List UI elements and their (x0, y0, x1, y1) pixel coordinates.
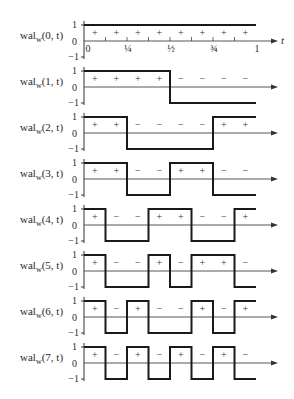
plus-sign: + (199, 165, 205, 176)
plus-sign: + (113, 27, 119, 38)
plus-sign: + (221, 27, 227, 38)
minus-sign: − (135, 165, 141, 176)
minus-sign: − (113, 303, 119, 314)
minus-sign: − (178, 119, 184, 130)
x-tick-label: 1 (255, 43, 260, 54)
function-label: walw(5, t) (20, 259, 63, 274)
minus-sign: − (221, 165, 227, 176)
minus-sign: − (178, 73, 184, 84)
plus-sign: + (156, 211, 162, 222)
plus-sign: + (135, 349, 141, 360)
y-tick-0: 0 (72, 358, 77, 369)
y-tick-0: 0 (72, 128, 77, 139)
plus-sign: + (92, 27, 98, 38)
walsh-panel-6: walw(6, t)10−1+−+−−+−+ (20, 295, 278, 338)
plus-sign: + (156, 73, 162, 84)
plus-sign: + (113, 119, 119, 130)
walsh-functions-diagram: walw(0, t)10−1++++++++0¼½¾1twalw(1, t)10… (0, 0, 294, 399)
plus-sign: + (92, 349, 98, 360)
y-tick-neg1: −1 (68, 143, 79, 154)
minus-sign: − (156, 119, 162, 130)
y-tick-neg1: −1 (68, 189, 79, 200)
axis-arrow-icon (271, 269, 278, 274)
minus-sign: − (178, 303, 184, 314)
plus-sign: + (113, 165, 119, 176)
minus-sign: − (199, 211, 205, 222)
plus-sign: + (178, 165, 184, 176)
y-tick-1: 1 (72, 295, 77, 306)
minus-sign: − (242, 165, 248, 176)
plus-sign: + (135, 73, 141, 84)
minus-sign: − (156, 349, 162, 360)
x-tick-label: 0 (86, 43, 91, 54)
function-label: walw(4, t) (20, 213, 63, 228)
plus-sign: + (242, 119, 248, 130)
plus-sign: + (92, 165, 98, 176)
walsh-panel-4: walw(4, t)10−1+−−++−−+ (20, 203, 278, 246)
y-tick-1: 1 (72, 65, 77, 76)
y-tick-1: 1 (72, 111, 77, 122)
plus-sign: + (199, 27, 205, 38)
minus-sign: − (221, 73, 227, 84)
function-label: walw(6, t) (20, 305, 63, 320)
y-tick-1: 1 (72, 341, 77, 352)
x-tick-label: ¾ (210, 43, 218, 54)
plus-sign: + (221, 257, 227, 268)
minus-sign: − (199, 119, 205, 130)
plus-sign: + (92, 303, 98, 314)
function-label: walw(0, t) (20, 29, 63, 44)
minus-sign: − (113, 257, 119, 268)
minus-sign: − (242, 257, 248, 268)
minus-sign: − (178, 257, 184, 268)
function-label: walw(1, t) (20, 75, 63, 90)
plus-sign: + (113, 73, 119, 84)
y-tick-neg1: −1 (68, 281, 79, 292)
plus-sign: + (92, 211, 98, 222)
plus-sign: + (156, 27, 162, 38)
y-tick-1: 1 (72, 19, 77, 30)
axis-arrow-icon (271, 39, 278, 44)
y-tick-neg1: −1 (68, 235, 79, 246)
minus-sign: − (135, 211, 141, 222)
plus-sign: + (199, 303, 205, 314)
x-tick-label: ½ (167, 43, 175, 54)
y-tick-0: 0 (72, 174, 77, 185)
plus-sign: + (92, 73, 98, 84)
y-tick-neg1: −1 (68, 51, 79, 62)
axis-arrow-icon (271, 315, 278, 320)
minus-sign: − (156, 165, 162, 176)
minus-sign: − (135, 257, 141, 268)
minus-sign: − (113, 211, 119, 222)
minus-sign: − (156, 303, 162, 314)
plus-sign: + (178, 27, 184, 38)
axis-arrow-icon (271, 85, 278, 90)
y-tick-neg1: −1 (68, 373, 79, 384)
walsh-panel-2: walw(2, t)10−1++−−−−++ (20, 111, 278, 154)
minus-sign: − (199, 73, 205, 84)
y-tick-0: 0 (72, 36, 77, 47)
walsh-panel-1: walw(1, t)10−1++++−−−− (20, 65, 278, 108)
axis-arrow-icon (271, 177, 278, 182)
minus-sign: − (221, 303, 227, 314)
plus-sign: + (178, 349, 184, 360)
minus-sign: − (242, 73, 248, 84)
function-label: walw(2, t) (20, 121, 63, 136)
y-tick-1: 1 (72, 157, 77, 168)
y-tick-1: 1 (72, 203, 77, 214)
plus-sign: + (199, 257, 205, 268)
walsh-panel-7: walw(7, t)10−1+−+−+−+− (20, 341, 278, 384)
minus-sign: − (113, 349, 119, 360)
y-tick-0: 0 (72, 312, 77, 323)
plus-sign: + (178, 211, 184, 222)
minus-sign: − (135, 119, 141, 130)
y-tick-neg1: −1 (68, 327, 79, 338)
walsh-panel-5: walw(5, t)10−1+−−+−++− (20, 249, 278, 292)
plus-sign: + (221, 119, 227, 130)
axis-arrow-icon (271, 361, 278, 366)
x-axis-label: t (281, 34, 285, 46)
axis-arrow-icon (271, 223, 278, 228)
plus-sign: + (242, 303, 248, 314)
axis-arrow-icon (271, 131, 278, 136)
minus-sign: − (221, 211, 227, 222)
y-tick-0: 0 (72, 220, 77, 231)
